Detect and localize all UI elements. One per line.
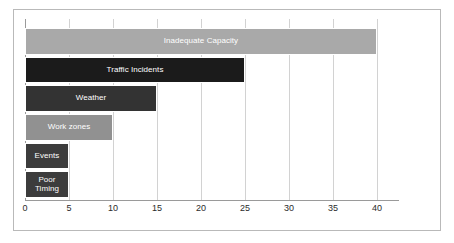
x-tick-label-30: 30 bbox=[284, 203, 294, 213]
bar-row: Weather bbox=[25, 85, 399, 112]
x-tick-label-5: 5 bbox=[66, 203, 71, 213]
x-tick-label-0: 0 bbox=[22, 203, 27, 213]
bar-label: Poor Timing bbox=[33, 176, 61, 193]
bar[interactable]: Weather bbox=[25, 85, 157, 112]
chart-frame: Inadequate CapacityTraffic IncidentsWeat… bbox=[13, 9, 441, 231]
x-tick-label-40: 40 bbox=[372, 203, 382, 213]
bar[interactable]: Events bbox=[25, 143, 69, 170]
plot-area: Inadequate CapacityTraffic IncidentsWeat… bbox=[25, 19, 399, 200]
bar-row: Work zones bbox=[25, 114, 399, 141]
x-tick-label-35: 35 bbox=[328, 203, 338, 213]
x-tick-label-15: 15 bbox=[152, 203, 162, 213]
bar-row: Inadequate Capacity bbox=[25, 28, 399, 55]
bar-label: Inadequate Capacity bbox=[162, 37, 240, 45]
bar-row: Events bbox=[25, 143, 399, 170]
x-axis-tick-labels: 0510152025303540 bbox=[25, 203, 399, 219]
x-tick-label-25: 25 bbox=[240, 203, 250, 213]
x-tick-label-20: 20 bbox=[196, 203, 206, 213]
x-axis-line bbox=[25, 200, 399, 201]
bar[interactable]: Inadequate Capacity bbox=[25, 28, 377, 55]
bar-label: Weather bbox=[74, 94, 108, 102]
bar-row: Poor Timing bbox=[25, 171, 399, 198]
bar[interactable]: Poor Timing bbox=[25, 171, 69, 198]
bars-layer: Inadequate CapacityTraffic IncidentsWeat… bbox=[25, 28, 399, 200]
bar[interactable]: Work zones bbox=[25, 114, 113, 141]
bar-label: Traffic Incidents bbox=[105, 66, 166, 74]
x-tick-label-10: 10 bbox=[108, 203, 118, 213]
bar[interactable]: Traffic Incidents bbox=[25, 57, 245, 84]
bar-row: Traffic Incidents bbox=[25, 57, 399, 84]
bar-label: Work zones bbox=[46, 123, 93, 131]
bar-label: Events bbox=[33, 152, 62, 160]
